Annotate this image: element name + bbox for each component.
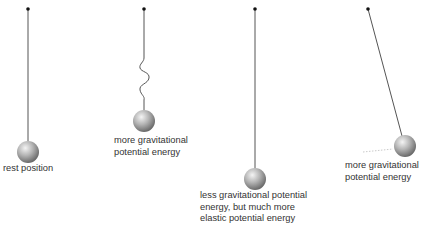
pendulum-string-wavy: [140, 9, 149, 110]
pendulum-ball: [17, 141, 39, 163]
pendulum-wavy: [133, 7, 155, 132]
pendulum-string: [368, 9, 402, 136]
label-line: elastic potential energy: [200, 213, 307, 225]
label-line: potential energy: [345, 172, 419, 184]
pivot-point-icon: [142, 7, 146, 11]
dotted-arc-trace: [363, 149, 393, 152]
pendulum-rest: [17, 7, 39, 163]
label-line: more gravitational: [114, 135, 188, 147]
label-line: less gravitational potential: [200, 190, 307, 202]
pendulum-ball: [394, 135, 416, 157]
label-line: rest position: [3, 163, 53, 175]
label-rest-position: rest position: [3, 163, 53, 175]
pendulum-swung: [363, 7, 416, 157]
pivot-point-icon: [366, 7, 370, 11]
label-line: more gravitational: [345, 160, 419, 172]
pivot-point-icon: [26, 7, 30, 11]
label-line: energy, but much more: [200, 202, 307, 214]
pendulum-ball: [244, 168, 266, 190]
label-line: potential energy: [114, 147, 188, 159]
label-stretched: less gravitational potential energy, but…: [200, 190, 307, 225]
label-wavy: more gravitational potential energy: [114, 135, 188, 158]
pendulum-ball: [133, 110, 155, 132]
pivot-point-icon: [253, 7, 257, 11]
label-swung: more gravitational potential energy: [345, 160, 419, 183]
pendulum-stretched: [244, 7, 266, 190]
